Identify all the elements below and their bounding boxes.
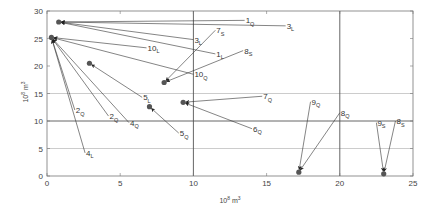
- annotation-arrow: [61, 22, 193, 39]
- annotation-subscript: Q: [134, 123, 139, 129]
- data-point-F: [147, 104, 152, 109]
- annotation-arrow: [185, 103, 251, 129]
- x-tick-label: 5: [118, 179, 123, 188]
- y-tick-label: 5: [39, 145, 44, 154]
- y-tick-label: 10: [34, 117, 43, 126]
- annotation-subscript: Q: [80, 111, 85, 117]
- y-tick-label: 15: [34, 90, 43, 99]
- annotation-labels: 1Q3L3L1L10L10Q5L2Q2Q4Q4L7S8S7Q6Q5Q9Q8Q9S…: [76, 16, 405, 159]
- annotation-subscript: L: [91, 153, 94, 159]
- annotation-subscript: Q: [268, 97, 273, 103]
- annotation-label: 4L: [86, 149, 94, 160]
- x-tick-label: 0: [45, 179, 50, 188]
- annotation-label: 8S: [244, 47, 252, 58]
- annotation-arrow: [61, 22, 215, 53]
- y-tick-label: 30: [34, 7, 43, 16]
- axis-label-part: m: [22, 84, 29, 92]
- data-point-A: [56, 19, 61, 24]
- x-tick-label: 15: [262, 179, 271, 188]
- annotation-subscript: L: [199, 40, 202, 46]
- annotation-subscript: S: [221, 31, 225, 37]
- axis-label-part: 10: [219, 197, 227, 204]
- axis-label-part: 10: [22, 95, 29, 103]
- data-point-H: [381, 171, 386, 176]
- axis-label-part: 3: [238, 195, 241, 201]
- annotation-subscript: L: [148, 98, 151, 104]
- annotation-arrow: [299, 102, 310, 170]
- annotation-label: 7Q: [263, 92, 272, 103]
- annotation-subscript: Q: [114, 117, 119, 123]
- annotation-label: 2Q: [109, 112, 118, 123]
- annotation-label: 8Q: [341, 109, 350, 120]
- annotation-label: 9S: [377, 119, 385, 129]
- y-tick-label: 0: [39, 172, 44, 181]
- annotation-subscript: S: [249, 51, 253, 57]
- annotation-label: 5L: [143, 93, 151, 104]
- annotation-arrow: [376, 123, 383, 172]
- annotation-label: 1Q: [246, 16, 255, 27]
- annotation-label: 8S: [396, 117, 404, 128]
- data-point-E: [181, 100, 186, 105]
- annotation-label: 3L: [194, 36, 202, 47]
- annotation-label: 2Q: [76, 106, 85, 117]
- y-axis-label: 108 m3: [20, 81, 29, 102]
- annotation-subscript: L: [221, 54, 224, 60]
- annotation-label: 10Q: [194, 70, 208, 81]
- axis-label-part: 3: [20, 81, 26, 84]
- y-tick-label: 20: [34, 62, 43, 71]
- x-tick-label: 10: [189, 179, 198, 188]
- data-point-D: [162, 80, 167, 85]
- annotation-subscript: Q: [316, 102, 321, 108]
- annotation-arrow: [54, 38, 147, 48]
- x-tick-label: 25: [409, 179, 418, 188]
- annotation-subscript: S: [401, 122, 405, 128]
- annotation-subscript: Q: [184, 134, 189, 140]
- annotation-arrow: [61, 20, 244, 22]
- annotation-subscript: S: [382, 123, 386, 129]
- annotation-subscript: L: [156, 48, 159, 54]
- annotation-arrow: [53, 39, 109, 116]
- annotation-subscript: L: [291, 26, 294, 32]
- annotation-label: 9Q: [312, 98, 321, 109]
- annotation-subscript: Q: [257, 129, 262, 135]
- scatter-chart: 0510152025 051015202530 1Q3L3L1L10L10Q5L…: [0, 0, 439, 208]
- annotation-arrow: [53, 39, 129, 122]
- annotation-arrow: [384, 121, 395, 171]
- annotation-label: 3L: [287, 22, 295, 32]
- annotation-arrow: [92, 65, 143, 98]
- annotation-arrow: [54, 38, 194, 74]
- data-point-B: [49, 35, 54, 40]
- axis-label-part: m: [230, 197, 238, 204]
- annotation-label: 4Q: [130, 119, 139, 129]
- annotation-label: 6Q: [253, 125, 262, 136]
- annotation-arrow: [166, 30, 215, 80]
- annotation-arrow: [186, 96, 263, 102]
- annotation-subscript: Q: [203, 75, 208, 81]
- annotation-label: 5Q: [180, 129, 189, 140]
- x-axis-label: 108 m3: [219, 195, 240, 204]
- annotation-label: 7S: [216, 26, 224, 37]
- data-point-C: [87, 61, 92, 66]
- annotation-subscript: Q: [250, 21, 255, 27]
- y-tick-label: 25: [34, 35, 43, 44]
- annotation-label: 10L: [148, 44, 160, 55]
- data-point-G: [296, 170, 301, 175]
- x-axis-ticks: 0510152025: [45, 11, 418, 188]
- annotation-arrow: [52, 40, 85, 153]
- reference-lines: [47, 11, 413, 176]
- annotation-subscript: Q: [345, 113, 350, 119]
- x-tick-label: 20: [335, 179, 344, 188]
- annotation-label: 1L: [216, 50, 224, 61]
